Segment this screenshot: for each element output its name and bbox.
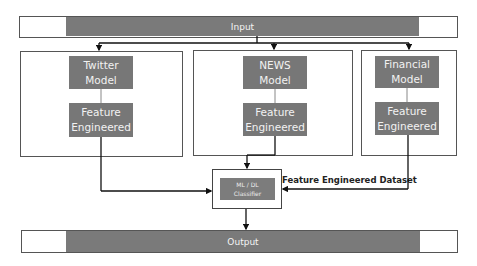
connector-lines bbox=[0, 0, 477, 266]
